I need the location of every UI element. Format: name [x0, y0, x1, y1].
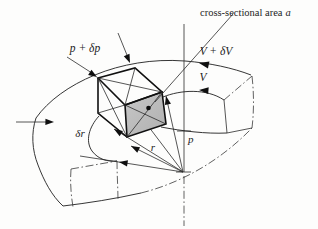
streamline-centre-dot [146, 106, 151, 111]
label-velocity-inner: V [199, 71, 208, 83]
outer-left-arc [33, 118, 63, 206]
inner-top-arc-right [163, 91, 224, 100]
outer-bottom-arc-hidden [141, 128, 252, 193]
outer-bottom-arc [63, 193, 141, 206]
label-velocity-outer: V + δV [200, 45, 235, 57]
label-radius: r [151, 141, 156, 153]
figure-canvas: cross-sectional areaa p + δp V + δV V δr… [0, 0, 318, 229]
label-pressure-outer: p + δp [69, 42, 101, 55]
inner-top-arc-left [88, 116, 117, 161]
label-pressure-inner: p [187, 133, 194, 145]
axis-line [176, 24, 191, 226]
right-cut-face [224, 76, 254, 133]
fluid-element [98, 68, 166, 137]
diagram-svg: cross-sectional areaa p + δp V + δV V δr… [0, 0, 318, 229]
left-cut-face [71, 161, 118, 207]
label-cross-sectional-area: cross-sectional areaa [200, 7, 291, 18]
inner-bottom-arc [161, 127, 227, 133]
stream-tube-outline [33, 60, 254, 207]
label-radial-thickness: δr [75, 127, 85, 139]
area-leader-line [155, 14, 233, 102]
